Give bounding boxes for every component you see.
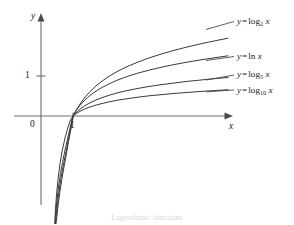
logarithmic-functions-figure: y x 0 1 1 y=log2 x y=ln x y=log5 x y=log… — [0, 0, 294, 224]
curve-log5 — [54, 78, 228, 225]
curve-label-log2-arg: x — [265, 16, 269, 26]
curve-label-log5: y=log5 x — [237, 70, 269, 79]
curve-label-ln-arg: x — [258, 51, 262, 61]
plot-canvas — [0, 0, 294, 224]
figure-caption: Logarithmic functions — [0, 211, 294, 224]
curve-label-log2: y=log2 x — [237, 17, 269, 26]
y-tick-label-1: 1 — [25, 71, 30, 81]
curve-ln — [54, 56, 228, 224]
y-axis-label: y — [31, 12, 35, 22]
leader-line-log2 — [206, 22, 234, 30]
x-axis-label: x — [229, 122, 233, 132]
curve-log2 — [54, 38, 228, 224]
curve-label-log5-base: 5 — [260, 73, 263, 80]
curve-label-ln-fn: ln — [248, 51, 255, 61]
curve-label-log2-base: 2 — [260, 20, 263, 27]
y-axis-arrow-icon — [38, 13, 45, 22]
curve-label-log10: y=log10 x — [237, 86, 273, 95]
curve-log10 — [54, 90, 228, 224]
curve-label-log10-base: 10 — [260, 89, 266, 96]
x-axis-arrow-icon — [225, 113, 234, 120]
origin-label: 0 — [30, 120, 35, 130]
curve-label-log5-arg: x — [265, 69, 269, 79]
curve-label-ln: y=ln x — [237, 52, 262, 61]
curve-label-log10-fn: log — [248, 85, 260, 95]
curve-label-log2-fn: log — [248, 16, 260, 26]
curve-label-log10-arg: x — [269, 85, 273, 95]
curve-label-log5-fn: log — [248, 69, 260, 79]
leader-line-log5 — [206, 75, 234, 80]
x-tick-label-1: 1 — [70, 121, 75, 131]
